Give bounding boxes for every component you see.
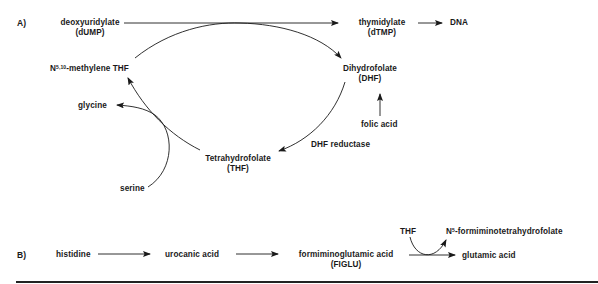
node-glutamic-acid: glutamic acid <box>462 251 516 261</box>
bottom-rule <box>16 281 598 283</box>
node-dtmp: thymidylate (dTMP) <box>350 18 414 37</box>
panel-b-label: B) <box>17 250 26 260</box>
arrow-thf-to-methylene <box>128 78 200 150</box>
arrow-serine-to-glycine <box>117 105 169 187</box>
node-histidine: histidine <box>56 250 91 260</box>
pathway-arrows <box>0 0 598 284</box>
node-dump: deoxyuridylate (dUMP) <box>56 18 124 37</box>
node-formimino-thf: N5-formiminotetrahydrofolate <box>446 227 563 237</box>
node-folic-acid: folic acid <box>361 120 398 130</box>
node-dhf: Dihydrofolate (DHF) <box>340 64 400 83</box>
arrow-methylene-to-dhf <box>135 23 341 58</box>
enzyme-dhf-reductase: DHF reductase <box>311 140 370 150</box>
node-serine: serine <box>120 184 145 194</box>
node-glycine: glycine <box>78 101 107 111</box>
panel-a-label: A) <box>17 18 26 28</box>
node-thf-b: THF <box>400 227 416 237</box>
node-dna: DNA <box>450 18 468 28</box>
node-urocanic-acid: urocanic acid <box>165 250 219 260</box>
node-thf: Tetrahydrofolate (THF) <box>200 154 276 173</box>
arrow-thf-to-formimino <box>410 237 446 255</box>
node-methylene-thf: N5,10-methylene THF <box>50 64 129 74</box>
node-figlu: formiminoglutamic acid (FIGLU) <box>290 250 402 269</box>
